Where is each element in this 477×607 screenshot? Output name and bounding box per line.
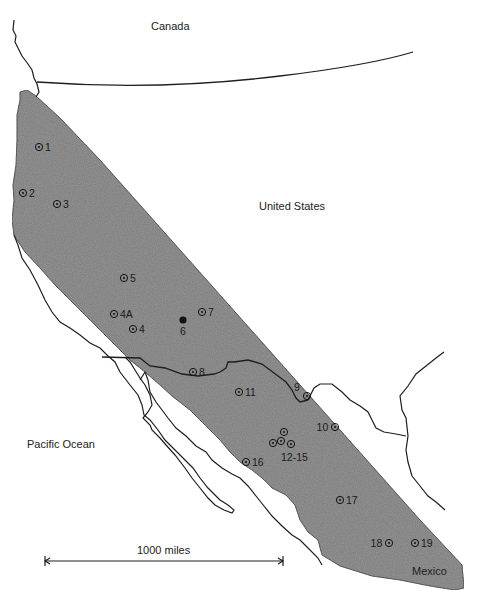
site-label-10: 10 (317, 422, 329, 433)
region-label-pacific-ocean: Pacific Ocean (27, 438, 95, 450)
northwest-coastline (13, 20, 39, 97)
site-label-8: 8 (199, 367, 205, 378)
site-label-4A: 4A (120, 309, 133, 320)
site-label-5: 5 (130, 273, 136, 284)
scale-bar-label: 1000 miles (137, 544, 190, 556)
scale-bar (45, 556, 283, 566)
gulf-of-mexico-coast (400, 352, 445, 510)
region-label-mexico: Mexico (412, 565, 447, 577)
site-label-16: 16 (252, 457, 264, 468)
region-label-canada: Canada (151, 20, 190, 32)
study-region-band (12, 90, 464, 590)
site-label-6: 6 (180, 326, 186, 337)
site-label-19: 19 (421, 538, 433, 549)
site-marker-6 (179, 316, 186, 323)
site-label-2: 2 (29, 188, 35, 199)
site-label-18: 18 (371, 538, 383, 549)
site-label-17: 17 (346, 495, 358, 506)
map-canvas (0, 0, 477, 607)
filled-dot-icon (179, 316, 186, 323)
site-label-7: 7 (208, 307, 214, 318)
site-label-9: 9 (294, 382, 300, 393)
site-group-label-12-15: 12-15 (281, 452, 308, 463)
site-label-4: 4 (139, 324, 145, 335)
site-label-3: 3 (63, 199, 69, 210)
site-label-1: 1 (45, 142, 51, 153)
region-label-united-states: United States (259, 200, 325, 212)
canada-us-border (37, 52, 413, 85)
site-label-11: 11 (245, 387, 256, 398)
